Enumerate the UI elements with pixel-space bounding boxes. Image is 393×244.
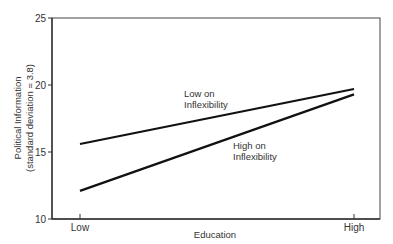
- y-axis-label-group: Political Information (standard deviatio…: [12, 64, 35, 172]
- y-tick-label: 25: [35, 13, 47, 24]
- annotation-low-inflexibility-1: Low on: [184, 88, 215, 99]
- y-tick-label: 10: [35, 214, 47, 225]
- y-axis-label: Political Information: [12, 77, 23, 160]
- annotation-high-inflexibility-1: High on: [233, 140, 266, 151]
- y-tick-label: 20: [35, 80, 47, 91]
- annotation-high-inflexibility-2: Inflexibility: [233, 151, 277, 162]
- chart: 10152025 LowHigh Education Political Inf…: [0, 0, 393, 244]
- y-tick-label: 15: [35, 147, 47, 158]
- y-axis-sublabel: (standard deviation = 3.8): [24, 64, 35, 172]
- annotation-low-inflexibility-2: Inflexibility: [184, 99, 228, 110]
- x-axis-label: Education: [194, 229, 236, 240]
- y-ticks: 10152025: [35, 13, 52, 225]
- x-tick-label: Low: [71, 222, 90, 233]
- series-line-low-inflexibility: [80, 89, 354, 144]
- x-tick-label: High: [344, 222, 365, 233]
- plot-frame: [52, 18, 380, 219]
